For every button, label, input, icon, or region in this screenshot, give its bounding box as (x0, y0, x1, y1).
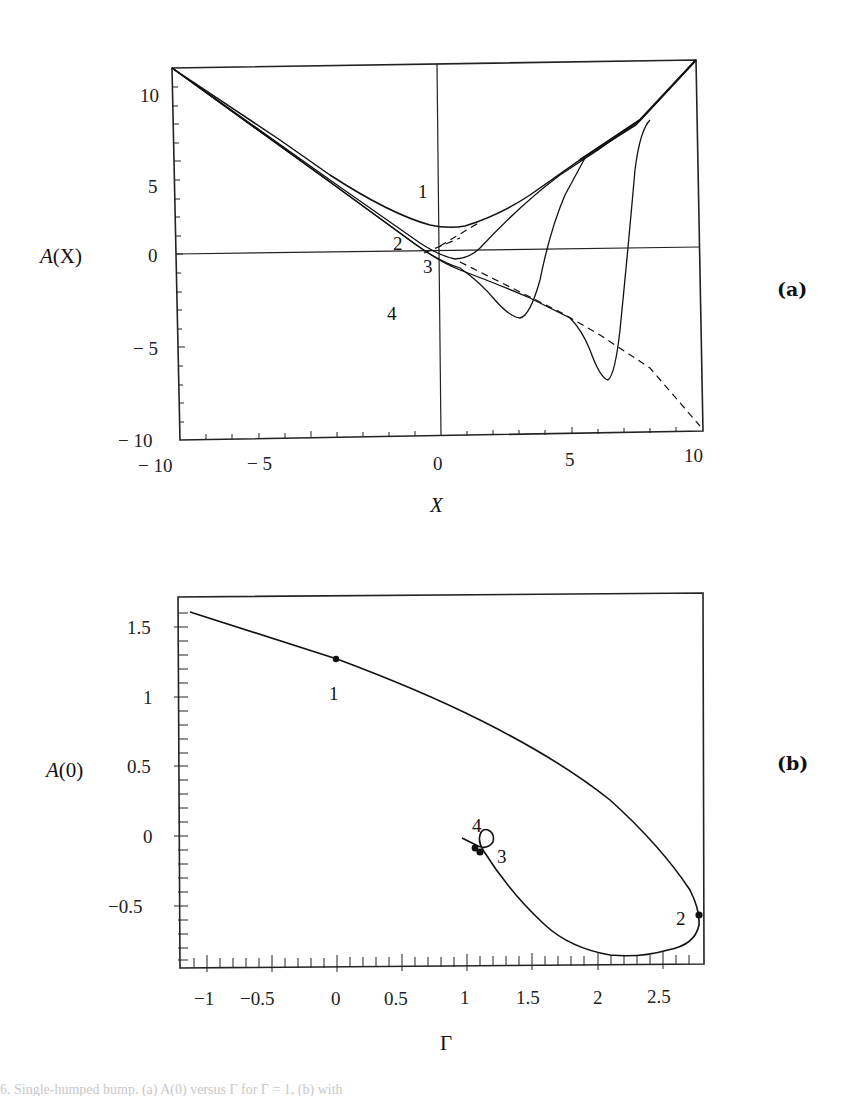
point-label-3-b: 3 (497, 846, 507, 867)
x-axis-title-b: Γ (440, 1031, 452, 1055)
figure-caption: 6. Single-humped bump. (a) A(0) versus Γ… (0, 1082, 853, 1096)
y-tick-label-a: − 5 (133, 338, 158, 359)
curve-1-a (172, 60, 696, 227)
point-label-1-b: 1 (329, 683, 339, 704)
x-tick-label-b: 2.5 (647, 986, 671, 1007)
x-tick-label-b: 0 (331, 988, 341, 1009)
y-tick-label-b: 1.5 (127, 617, 151, 638)
plot-frame-b (178, 593, 704, 968)
x-tick-label-b: 0.5 (384, 988, 408, 1009)
panel-b: 1 2 3 4 1.5 1 0.5 0 −0.5 −1 −0.5 0 0.5 1… (44, 593, 808, 1055)
curve-label-2-a: 2 (393, 233, 403, 254)
x-tick-label-b: −1 (194, 988, 214, 1009)
panel-label-b: (b) (777, 752, 808, 774)
y-tick-label-b: −0.5 (108, 896, 142, 917)
x-tick-label-b: 1 (460, 987, 470, 1008)
panel-a: 10 5 0 − 5 − 10 − 10 − 5 0 5 10 1 2 3 4 … (38, 60, 807, 517)
curve-label-3-a: 3 (423, 256, 433, 277)
curve-2-a (172, 68, 640, 259)
curve-b (190, 612, 699, 956)
curve-3-a (172, 68, 585, 318)
point-1-b (333, 656, 339, 662)
y-tick-label-a: − 10 (118, 430, 152, 451)
curve-label-4-a: 4 (387, 303, 397, 324)
x-tick-label-a: − 10 (138, 455, 172, 476)
x-tick-label-b: 1.5 (516, 987, 540, 1008)
x-tick-label-a: 0 (433, 453, 443, 474)
y-tick-label-a: 10 (140, 85, 159, 106)
x-tick-label-a: 5 (565, 449, 575, 470)
x-tick-label-b: −0.5 (240, 988, 274, 1009)
y-ticks-b (174, 613, 188, 960)
curve-label-1-a: 1 (418, 181, 428, 202)
y-tick-label-a: 0 (148, 245, 158, 266)
point-label-2-b: 2 (676, 908, 686, 929)
point-label-4-b: 4 (472, 815, 482, 836)
curve-4-a (172, 68, 650, 380)
x-tick-label-b: 2 (593, 987, 603, 1008)
point-4-b (472, 845, 479, 852)
x-tick-label-a: − 5 (247, 453, 272, 474)
point-2-b (695, 911, 702, 918)
y-axis-title-a: A(X) (38, 244, 82, 268)
y-tick-label-b: 0.5 (127, 756, 151, 777)
asymptote-dashed-a (424, 222, 700, 426)
panel-label-a: (a) (777, 278, 807, 300)
y-tick-label-b: 0 (143, 826, 153, 847)
y-tick-label-b: 1 (143, 687, 153, 708)
curve-right-envelope-a (580, 60, 696, 160)
y-axis-title-b: A(0) (44, 758, 83, 782)
x-tick-label-a: 10 (684, 445, 703, 466)
y-tick-label-a: 5 (148, 176, 158, 197)
x-axis-title-a: X (429, 493, 444, 517)
